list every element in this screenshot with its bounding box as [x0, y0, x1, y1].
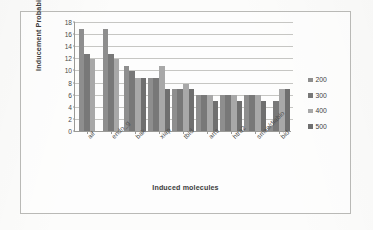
bar [177, 89, 182, 131]
bar [285, 89, 290, 131]
bar [103, 29, 108, 131]
x-label-slot: bid [267, 133, 291, 179]
y-tick-label: 8 [68, 79, 72, 86]
legend-swatch-icon [308, 78, 313, 83]
chart-frame: Inducement Probability 181614121086420 a… [20, 11, 351, 214]
x-label-slot: bak [122, 133, 146, 179]
bar [201, 95, 206, 131]
y-axis-title: Inducement Probability [35, 0, 43, 86]
bar [153, 78, 158, 131]
bar-group [219, 22, 243, 131]
legend-label: 300 [316, 92, 327, 99]
bar [189, 89, 194, 131]
bar [135, 78, 140, 131]
y-tick-label: 14 [65, 43, 72, 50]
y-tick-label: 2 [68, 115, 72, 122]
bar [225, 95, 230, 131]
x-label-slot: smac/diablo [243, 133, 267, 179]
bar [172, 89, 177, 131]
bar [183, 84, 188, 131]
legend-swatch-icon [308, 124, 313, 129]
bar [148, 78, 153, 131]
bar [207, 95, 212, 131]
y-tick-label: 12 [65, 55, 72, 62]
bar [196, 95, 201, 131]
bar [249, 95, 254, 131]
legend-item: 400 [308, 103, 350, 119]
legend-swatch-icon [308, 93, 313, 98]
plot-area: 181614121086420 [74, 22, 291, 132]
bar [165, 89, 170, 131]
y-tick-label: 4 [68, 103, 72, 110]
bar [114, 59, 119, 131]
bar [220, 95, 225, 131]
x-label-slot: htra2 [219, 133, 243, 179]
y-tick-label: 6 [68, 91, 72, 98]
x-label-slot: endo_g [98, 133, 122, 179]
legend-label: 400 [316, 107, 327, 114]
bar [90, 59, 95, 131]
x-label-slot: xiap [146, 133, 170, 179]
legend-item: 200 [308, 72, 350, 88]
legend-label: 500 [316, 123, 327, 130]
x-label-slot: tbid [170, 133, 194, 179]
bar-group [99, 22, 123, 131]
bar [231, 95, 236, 131]
y-tick-label: 16 [65, 31, 72, 38]
x-label-slot: aif [74, 133, 98, 179]
bar-group [75, 22, 99, 131]
bar [141, 78, 146, 131]
bar [159, 66, 164, 131]
legend-item: 500 [308, 119, 350, 135]
bar-group [243, 22, 267, 131]
bar-group [171, 22, 195, 131]
y-tick-label: 10 [65, 67, 72, 74]
chart-legend: 200300400500 [308, 72, 350, 134]
bar-group [123, 22, 147, 131]
bar [84, 54, 89, 132]
bar [255, 95, 260, 131]
bar-group [147, 22, 171, 131]
x-axis-tick-labels: aifendo_gbakxiaptbidartshtra2smac/diablo… [74, 133, 291, 179]
legend-label: 200 [316, 76, 327, 83]
bar [108, 54, 113, 132]
legend-swatch-icon [308, 109, 313, 114]
legend-item: 300 [308, 88, 350, 104]
x-label-slot: arts [195, 133, 219, 179]
y-tick-label: 0 [68, 128, 72, 135]
x-axis-title: Induced molecules [21, 184, 350, 192]
bar-series-layer [75, 22, 291, 131]
bar-group [195, 22, 219, 131]
y-tick-label: 18 [65, 19, 72, 26]
bar [79, 29, 84, 131]
